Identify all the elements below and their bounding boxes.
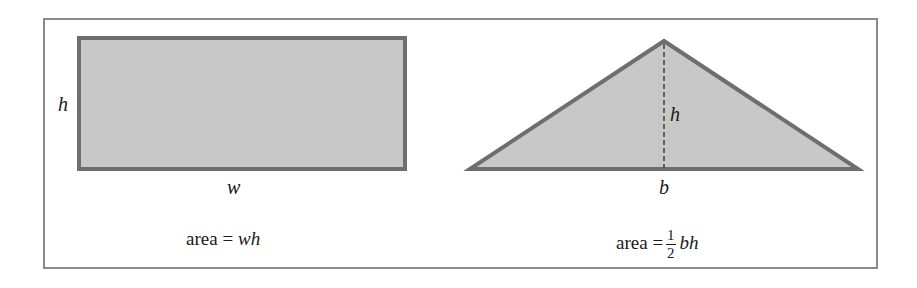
rectangle-width-label: w — [227, 177, 240, 197]
triangle-area-formula: area = 1 2 bh — [616, 226, 699, 259]
triangle-base-label: b — [659, 177, 669, 197]
rectangle-height-label: h — [58, 94, 68, 114]
rectangle-shape — [79, 38, 405, 169]
rectangle-formula-prefix: area = — [186, 229, 233, 248]
geometry-figure — [0, 0, 917, 288]
rectangle-formula-expression: wh — [238, 229, 260, 248]
fraction-denominator: 2 — [667, 245, 675, 261]
fraction-numerator: 1 — [666, 228, 676, 245]
one-half-fraction: 1 2 — [666, 228, 676, 261]
triangle-formula-expression: bh — [680, 233, 699, 252]
triangle-height-label: h — [670, 104, 680, 124]
triangle-formula-prefix: area = — [616, 233, 663, 252]
rectangle-area-formula: area = wh — [186, 229, 260, 248]
